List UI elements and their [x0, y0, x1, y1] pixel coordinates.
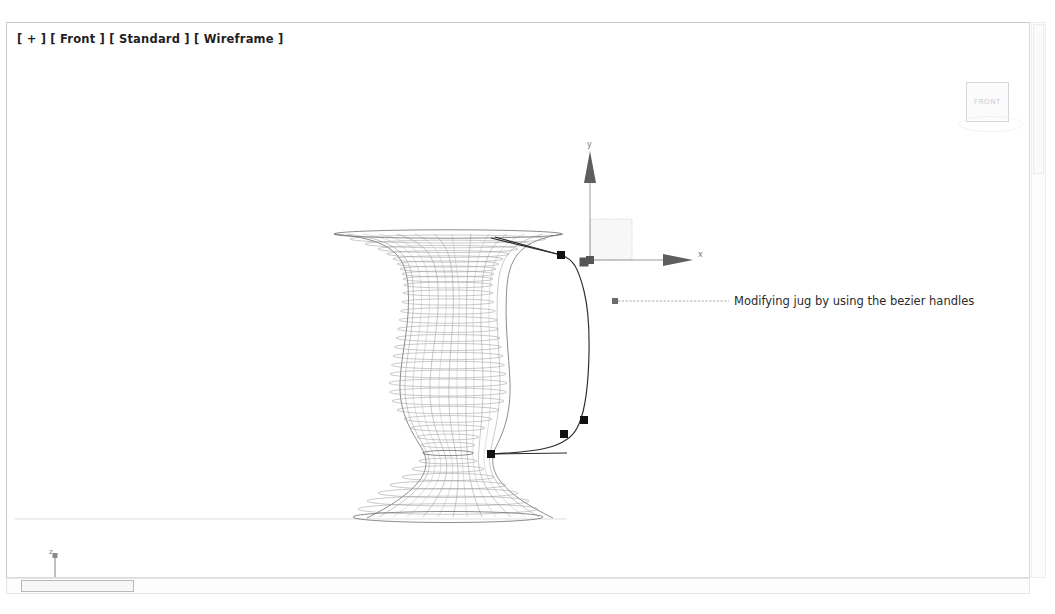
- mesh-rim-rings: [334, 230, 562, 288]
- control-vertex-5[interactable]: [487, 450, 495, 458]
- world-axis-tripod: z y x: [47, 548, 100, 578]
- gizmo-xy-plane-handle[interactable]: [590, 219, 632, 260]
- control-vertex-1[interactable]: [557, 251, 565, 259]
- horizontal-scrollbar[interactable]: [6, 578, 1030, 594]
- jug-wireframe-mesh[interactable]: [334, 230, 563, 523]
- gizmo-y-label: y: [587, 140, 592, 149]
- mesh-body-rings: [389, 290, 507, 456]
- gizmo-x-arrow-icon[interactable]: [663, 254, 693, 266]
- vertical-scrollbar[interactable]: [1031, 22, 1046, 578]
- mesh-foot-rings: [353, 458, 543, 522]
- application-window: [ + ] [ Front ] [ Standard ] [ Wireframe…: [0, 0, 1055, 614]
- tripod-z-label: z: [49, 548, 53, 556]
- annotation-anchor-marker: [612, 298, 618, 304]
- view-cube[interactable]: FRONT: [959, 78, 1023, 134]
- view-cube-label: FRONT: [974, 98, 1001, 106]
- viewport-front-wireframe[interactable]: [ + ] [ Front ] [ Standard ] [ Wireframe…: [6, 22, 1030, 578]
- view-cube-compass-ring-icon[interactable]: [959, 116, 1023, 132]
- gizmo-x-label: x: [698, 250, 703, 259]
- horizontal-scrollbar-thumb[interactable]: [21, 580, 134, 592]
- gizmo-center-handle[interactable]: [586, 256, 594, 264]
- bezier-profile-spline[interactable]: [487, 237, 589, 458]
- annotation-text: Modifying jug by using the bezier handle…: [734, 294, 974, 308]
- move-transform-gizmo[interactable]: y x: [584, 140, 703, 266]
- control-vertex-4[interactable]: [560, 430, 568, 438]
- mesh-longitudinal-lines: [334, 234, 563, 518]
- vertical-scrollbar-thumb[interactable]: [1033, 24, 1044, 174]
- control-vertex-3[interactable]: [580, 416, 588, 424]
- annotation-leader: [612, 298, 729, 304]
- gizmo-y-arrow-icon[interactable]: [584, 151, 596, 183]
